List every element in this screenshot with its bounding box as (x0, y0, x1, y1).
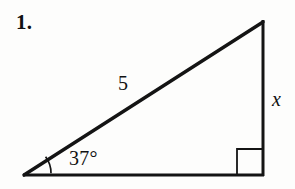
hypotenuse-line (24, 22, 263, 175)
unknown-side-label: x (272, 89, 281, 109)
problem-number-label: 1. (16, 12, 32, 33)
angle-measure-label: 37° (69, 148, 98, 168)
hypotenuse-length-label: 5 (118, 73, 128, 93)
right-angle-marker-icon (237, 149, 262, 174)
figure-container: 1. 5 x 37° (0, 0, 295, 189)
triangle-diagram (0, 0, 295, 189)
